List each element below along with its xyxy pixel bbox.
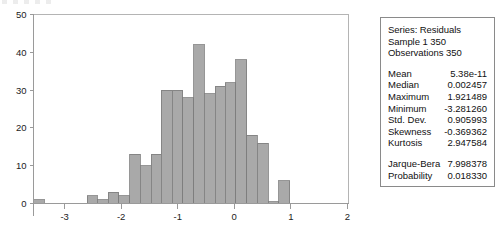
histogram-bar	[183, 98, 194, 204]
histogram-bar	[151, 154, 161, 203]
descriptive-statistics-list: Mean5.38e-11Median0.002457Maximum1.92148…	[388, 68, 487, 149]
statistic-value: 2.947584	[447, 137, 487, 149]
stat-row: Maximum1.921489	[388, 91, 487, 103]
histogram-bar	[225, 83, 236, 204]
histogram-bar	[172, 90, 183, 203]
stat-row: Probability0.018330	[388, 170, 487, 182]
x-axis: -3-2-1012	[34, 204, 351, 222]
y-tick-label: 0	[21, 198, 26, 209]
statistic-label: Mean	[388, 68, 412, 80]
histogram-bar	[279, 181, 290, 204]
histogram-bar	[108, 192, 119, 203]
x-tick-label: -2	[117, 211, 125, 222]
stat-row: Jarque-Bera7.998378	[388, 158, 487, 170]
histogram-bar	[204, 94, 215, 204]
x-tick-label: 1	[288, 211, 293, 222]
observations-line: Observations 350	[388, 47, 487, 59]
statistic-label: Median	[388, 79, 419, 91]
histogram-bar	[119, 196, 130, 204]
test-statistic-label: Probability	[388, 170, 432, 182]
stat-row: Median0.002457	[388, 79, 487, 91]
y-tick-label: 30	[16, 85, 27, 96]
histogram-bar	[140, 166, 151, 204]
stat-row: Mean5.38e-11	[388, 68, 487, 80]
histogram-canvas: 01020304050 -3-2-1012	[0, 0, 372, 239]
statistic-label: Maximum	[388, 91, 429, 103]
y-tick-label: 10	[16, 160, 27, 171]
statistic-label: Kurtosis	[388, 137, 422, 149]
test-statistic-label: Jarque-Bera	[388, 158, 440, 170]
statistic-label: Std. Dev.	[388, 114, 426, 126]
x-tick-label: 2	[345, 211, 350, 222]
histogram-bar	[87, 196, 97, 204]
statistic-label: Skewness	[388, 126, 431, 138]
x-tick-label: -3	[60, 211, 68, 222]
statistic-value: 5.38e-11	[450, 68, 487, 80]
histogram-bar	[194, 45, 205, 204]
statistic-label: Minimum	[388, 103, 427, 115]
stat-row: Std. Dev.0.905993	[388, 114, 487, 126]
statistic-value: -0.369362	[444, 126, 487, 138]
histogram-bar	[34, 200, 45, 204]
stats-spacer-top	[388, 59, 487, 68]
histogram-bar	[161, 90, 172, 203]
y-tick-label: 20	[16, 122, 27, 133]
test-statistic-value: 0.018330	[447, 170, 487, 182]
histogram-bar	[247, 135, 258, 203]
statistic-value: -3.281260	[444, 103, 487, 115]
y-tick-label: 50	[16, 9, 27, 20]
histogram-bars	[34, 45, 290, 204]
sample-range-line: Sample 1 350	[388, 36, 487, 48]
normality-test-list: Jarque-Bera7.998378Probability0.018330	[388, 158, 487, 181]
histogram-bar	[97, 200, 108, 204]
statistic-value: 0.002457	[447, 79, 487, 91]
y-axis: 01020304050	[16, 9, 34, 216]
histogram-bar	[236, 60, 247, 204]
x-tick-label: -1	[173, 211, 181, 222]
stat-row: Skewness-0.369362	[388, 126, 487, 138]
histogram-bar	[215, 86, 225, 203]
stat-row: Minimum-3.281260	[388, 103, 487, 115]
series-name-line: Series: Residuals	[388, 24, 487, 36]
y-tick-label: 40	[16, 47, 27, 58]
test-statistic-value: 7.998378	[447, 158, 487, 170]
stats-spacer-mid	[388, 149, 487, 158]
statistics-panel: Series: Residuals Sample 1 350 Observati…	[380, 17, 495, 187]
histogram-bar	[130, 154, 141, 203]
stat-row: Kurtosis2.947584	[388, 137, 487, 149]
histogram-figure: 01020304050 -3-2-1012	[0, 0, 372, 239]
x-tick-label: 0	[232, 211, 237, 222]
statistic-value: 0.905993	[447, 114, 487, 126]
histogram-bar	[257, 143, 268, 203]
statistic-value: 1.921489	[447, 91, 487, 103]
